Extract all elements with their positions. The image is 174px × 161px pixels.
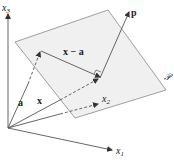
x2-axis xyxy=(8,114,60,128)
plane-label: 𝒫 xyxy=(164,72,173,82)
a-label: a xyxy=(18,97,23,108)
x1-label: x1 xyxy=(115,145,124,158)
x3-label: x3 xyxy=(1,2,10,15)
vector-plane-diagram: x3 x1 x2 a x x − a p 𝒫 xyxy=(0,0,174,161)
vector-x xyxy=(8,100,60,128)
x-minus-a-label: x − a xyxy=(63,46,84,57)
p-label: p xyxy=(131,7,137,18)
x1-axis xyxy=(8,128,112,150)
x-label: x xyxy=(37,95,42,106)
